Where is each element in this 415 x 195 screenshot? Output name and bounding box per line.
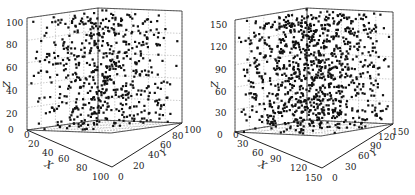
z-tick: 100 [6, 18, 23, 28]
x-axis-ticks: 0 20 40 60 80 100 [24, 130, 109, 182]
z-axis-ticks: 0 30 60 90 120 150 [210, 20, 227, 140]
x-tick: 90 [270, 154, 282, 164]
z-tick: 0 [217, 130, 223, 140]
z-axis-label: Z [209, 80, 220, 89]
z-tick: 30 [215, 108, 227, 118]
data-points [30, 9, 178, 130]
y-tick: 20 [133, 161, 145, 171]
y-tick: 80 [172, 131, 184, 141]
z-tick: 120 [210, 42, 227, 52]
x-tick: 40 [42, 148, 54, 158]
z-axis-ticks: 0 20 40 60 80 100 [6, 18, 23, 135]
z-axis-label: Z [1, 80, 12, 89]
x-tick: 20 [28, 139, 40, 149]
data-points [238, 8, 390, 134]
y-tick: 0 [118, 172, 124, 182]
x-tick: 120 [290, 163, 307, 173]
z-tick: 80 [6, 40, 18, 50]
y-tick: 0 [332, 173, 338, 183]
y-tick: 60 [358, 151, 370, 161]
y-tick: 30 [345, 162, 357, 172]
y-tick: 100 [184, 125, 201, 135]
x-tick: 60 [58, 154, 70, 164]
z-tick: 90 [215, 65, 227, 75]
x-tick: 30 [237, 139, 249, 149]
y-tick: 150 [392, 127, 409, 137]
scatter3d-figure: 0 20 40 60 80 100 Z 0 20 40 60 80 100 X … [0, 0, 415, 195]
x-axis-ticks: 0 30 60 90 120 150 [233, 130, 322, 183]
z-tick: 20 [6, 109, 18, 119]
x-tick: 60 [252, 148, 264, 158]
scatter3d-plot-right: 0 30 60 90 120 150 Z 0 30 60 90 120 150 … [209, 8, 409, 183]
z-tick: 60 [6, 63, 18, 73]
x-axis-label: X [256, 158, 269, 172]
scatter3d-plot-left: 0 20 40 60 80 100 Z 0 20 40 60 80 100 X … [1, 8, 201, 182]
x-tick: 80 [76, 163, 88, 173]
x-tick: 100 [92, 172, 109, 182]
x-axis-label: X [42, 158, 55, 172]
x-tick: 150 [305, 173, 322, 183]
z-tick: 150 [210, 20, 227, 30]
z-tick: 0 [8, 125, 14, 135]
